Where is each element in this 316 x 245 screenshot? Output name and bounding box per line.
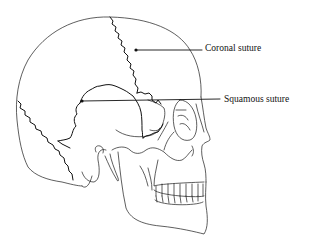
- squamous-suture-label: Squamous suture: [224, 95, 289, 105]
- zygomatic-arch-upper: [116, 128, 160, 137]
- coronal-suture-line: [110, 17, 138, 93]
- mandible-notch: [140, 166, 152, 190]
- skull-drawing: [0, 0, 316, 245]
- mandible: [118, 152, 207, 234]
- squamous-pointer-dot: [80, 99, 83, 102]
- orbit: [173, 100, 197, 140]
- styloid-process: [105, 154, 118, 181]
- mastoid-process: [82, 149, 106, 182]
- parietomastoid-suture: [58, 141, 70, 148]
- skull-diagram: Coronal suture Squamous suture: [0, 0, 316, 245]
- zygomatic-arch: [112, 147, 192, 161]
- lower-teeth: [155, 196, 203, 205]
- orbit-inner: [176, 110, 190, 130]
- coronal-pointer-dot: [134, 48, 137, 51]
- upper-teeth: [154, 184, 204, 197]
- lambdoid-suture-line: [18, 101, 73, 180]
- coronal-suture-label: Coronal suture: [205, 44, 261, 54]
- cranium-outline: [16, 17, 201, 186]
- face-profile: [201, 97, 210, 182]
- zygomatic-bone: [158, 122, 174, 150]
- squamous-suture-line: [58, 85, 143, 141]
- maxilla-edge: [154, 160, 204, 186]
- sphenoparietal-suture: [137, 92, 161, 104]
- nasal-aperture: [192, 146, 194, 156]
